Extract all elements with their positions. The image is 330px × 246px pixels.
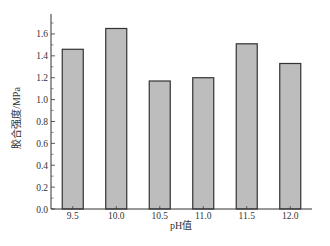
x-tick-label: 9.5 bbox=[67, 211, 79, 221]
y-tick-label: 0.0 bbox=[36, 205, 48, 215]
bar-10.5 bbox=[149, 81, 170, 209]
x-tick-label: 10.0 bbox=[108, 211, 125, 221]
y-tick-label: 1.2 bbox=[36, 73, 48, 83]
y-tick-label: 0.6 bbox=[36, 139, 48, 149]
bar-12.0 bbox=[280, 63, 301, 209]
y-tick-label: 0.8 bbox=[36, 117, 48, 127]
bar-11.5 bbox=[236, 44, 257, 209]
bar-11.0 bbox=[193, 78, 214, 209]
y-tick-label: 1.0 bbox=[36, 95, 48, 105]
bar-9.5 bbox=[62, 49, 83, 209]
y-tick-label: 0.4 bbox=[36, 161, 48, 171]
x-tick-label: 11.5 bbox=[239, 211, 256, 221]
y-tick-label: 1.4 bbox=[36, 51, 48, 61]
bar-10.0 bbox=[106, 28, 127, 209]
bar-chart: 9.510.010.511.011.512.00.00.20.40.60.81.… bbox=[0, 0, 330, 246]
y-tick-label: 0.2 bbox=[36, 183, 48, 193]
x-tick-label: 12.0 bbox=[282, 211, 299, 221]
x-axis-title: pH值 bbox=[170, 219, 192, 231]
x-tick-label: 10.5 bbox=[151, 211, 168, 221]
x-tick-label: 11.0 bbox=[195, 211, 212, 221]
y-axis-title: 胶合强度/MPa bbox=[10, 87, 22, 149]
y-tick-label: 1.6 bbox=[36, 29, 48, 39]
plot-area: 9.510.010.511.011.512.00.00.20.40.60.81.… bbox=[36, 14, 312, 221]
